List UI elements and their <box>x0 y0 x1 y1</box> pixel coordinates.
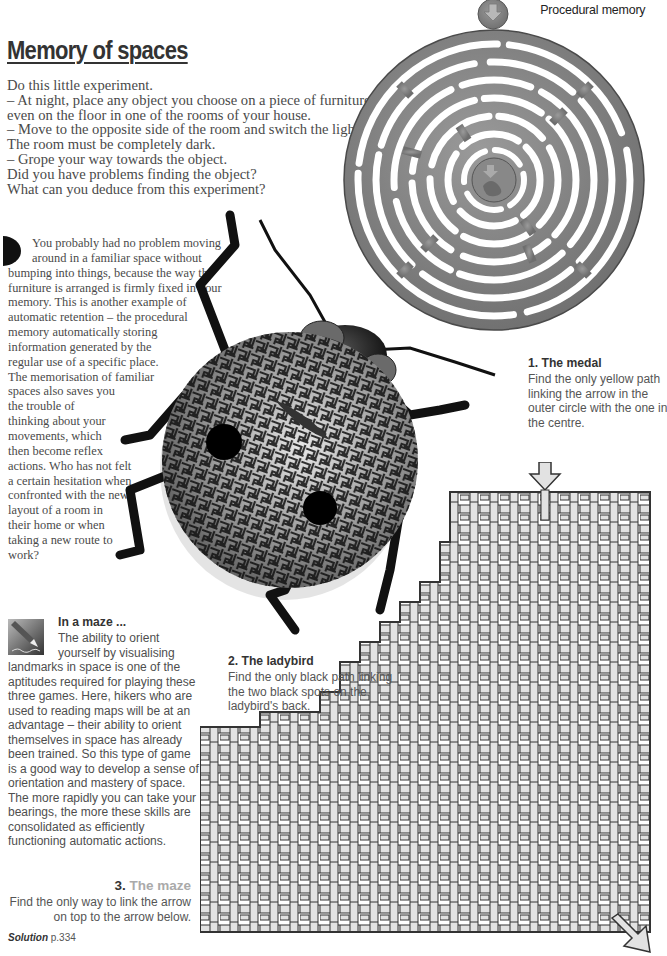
caption-line: Find the only yellow path <box>528 372 667 387</box>
caption-line: the centre. <box>528 416 667 431</box>
intro-line: – Grope your way towards the object. <box>7 152 347 167</box>
solution-page: p.334 <box>51 932 76 943</box>
solution-reference: Solution p.334 <box>8 932 76 943</box>
caption-line: linking the arrow in the <box>528 387 667 402</box>
sidebar-line: yourself by visualising <box>8 646 199 661</box>
intro-line: even on the floor in one of the rooms of… <box>7 108 347 123</box>
maze-number: 3. <box>114 878 125 893</box>
sidebar-line: themselves in space has already <box>8 733 199 748</box>
maze-title: The maze <box>129 878 191 893</box>
ladybird-caption: 2. The ladybird Find the only black path… <box>228 653 392 714</box>
caption-line: Find the only way to link the arrow <box>10 895 191 910</box>
medal-heading: 1. The medal <box>528 355 653 370</box>
caption-line: outer circle with the one in <box>528 401 667 416</box>
caption-line: ladybird's back. <box>228 699 392 714</box>
sidebar-line: bearings, the more these skills are <box>8 805 199 820</box>
caption-line: Find the only black path linking <box>228 670 392 685</box>
intro-line: Do this little experiment. <box>7 78 347 93</box>
sidebar-line: orientation and mastery of space. <box>8 776 199 791</box>
ladybird-heading: 2. The ladybird <box>228 653 376 668</box>
medal-caption: 1. The medal Find the only yellow path l… <box>528 355 667 430</box>
sidebar-line: aptitudes required for playing these <box>8 675 199 690</box>
sidebar-line: functioning automatic actions. <box>8 834 199 849</box>
sidebar-line: The ability to orient <box>8 631 199 646</box>
sidebar-line: used to reading maps will be at an <box>8 704 199 719</box>
sidebar-line: consolidated as efficiently <box>8 820 199 835</box>
intro-line: What can you deduce from this experiment… <box>7 182 347 197</box>
intro-line: – Move to the opposite side of the room … <box>7 122 347 137</box>
intro-line: The room must be completely dark. <box>7 137 347 152</box>
page-title: Memory of spaces <box>7 36 188 65</box>
sidebar-line: landmarks in space is one of the <box>8 660 199 675</box>
maze-caption: 3. The maze Find the only way to link th… <box>10 878 191 924</box>
intro-text: Do this little experiment. – At night, p… <box>7 78 347 196</box>
intro-line: – At night, place any object you choose … <box>7 93 347 108</box>
maze-heading: 3. The maze <box>10 878 191 893</box>
sidebar-line: three games. Here, hikers who are <box>8 689 199 704</box>
caption-line: on top to the arrow below. <box>10 910 191 925</box>
sidebar-line: is a good way to develop a sense of <box>8 762 199 777</box>
intro-line: Did you have problems finding the object… <box>7 167 347 182</box>
sidebar-line: advantage – their ability to orient <box>8 718 199 733</box>
sidebar-line: The more rapidly you can take your <box>8 791 199 806</box>
caption-line: the two black spots on the <box>228 685 392 700</box>
sidebar-title: In a maze ... <box>58 614 126 629</box>
sidebar-text: The ability to orient yourself by visual… <box>8 631 199 849</box>
solution-label: Solution <box>8 932 48 943</box>
sidebar-line: been trained. So this type of game <box>8 747 199 762</box>
